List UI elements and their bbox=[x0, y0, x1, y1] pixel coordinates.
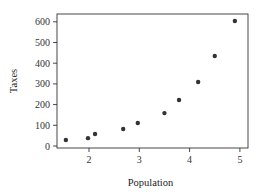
data-point bbox=[162, 111, 166, 115]
y-tick-label: 0 bbox=[45, 141, 50, 152]
y-axis: 0100200300400500600 bbox=[35, 16, 57, 151]
y-tick-label: 500 bbox=[35, 37, 50, 48]
data-point bbox=[121, 127, 125, 131]
y-tick-label: 400 bbox=[35, 58, 50, 69]
data-point bbox=[196, 80, 200, 84]
x-axis-title: Population bbox=[128, 177, 174, 188]
data-points bbox=[64, 19, 237, 142]
x-tick-label: 5 bbox=[237, 154, 242, 165]
scatter-chart: 0100200300400500600 2345 Population Taxe… bbox=[0, 0, 257, 194]
y-tick-label: 600 bbox=[35, 16, 50, 27]
y-tick-label: 200 bbox=[35, 99, 50, 110]
x-tick-label: 3 bbox=[137, 154, 142, 165]
y-tick-label: 300 bbox=[35, 78, 50, 89]
x-axis: 2345 bbox=[87, 148, 243, 165]
x-tick-label: 4 bbox=[187, 154, 192, 165]
data-point bbox=[64, 138, 68, 142]
data-point bbox=[136, 121, 140, 125]
data-point bbox=[177, 98, 181, 102]
data-point bbox=[86, 136, 90, 140]
x-tick-label: 2 bbox=[87, 154, 92, 165]
plot-frame bbox=[57, 14, 248, 148]
data-point bbox=[233, 19, 237, 23]
data-point bbox=[213, 54, 217, 58]
data-point bbox=[93, 132, 97, 136]
y-tick-label: 100 bbox=[35, 120, 50, 131]
y-axis-title: Taxes bbox=[8, 69, 19, 93]
